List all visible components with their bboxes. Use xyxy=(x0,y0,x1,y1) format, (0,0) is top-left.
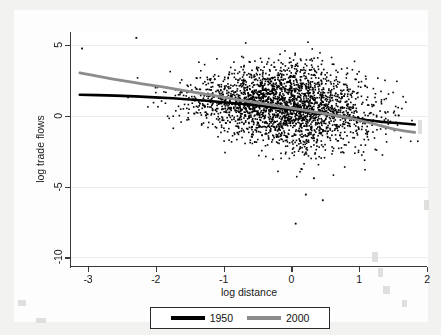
y-axis-title: log trade flows xyxy=(34,115,46,183)
legend-label-2000: 2000 xyxy=(286,313,309,324)
x-tick-mark xyxy=(88,267,89,272)
scan-speck xyxy=(418,120,422,134)
y-tick-mark xyxy=(65,116,70,117)
x-tick-mark xyxy=(224,267,225,272)
legend-item-1950: 1950 xyxy=(171,313,233,324)
y-axis-line xyxy=(70,32,71,268)
x-tick-label: 2 xyxy=(424,273,430,285)
y-tick-label: 5 xyxy=(52,42,64,48)
x-tick-mark xyxy=(359,267,360,272)
scan-speck xyxy=(378,268,383,277)
scan-speck xyxy=(36,318,46,323)
x-tick-mark xyxy=(291,267,292,272)
x-tick-label: -3 xyxy=(83,273,92,285)
scan-speck xyxy=(402,300,407,307)
legend-label-1950: 1950 xyxy=(210,313,233,324)
x-tick-label: -2 xyxy=(151,273,160,285)
scan-speck xyxy=(383,286,390,294)
x-tick-label: 1 xyxy=(356,273,362,285)
y-tick-label: -10 xyxy=(52,250,64,265)
legend-swatch-1950 xyxy=(171,316,205,319)
x-axis-title: log distance xyxy=(221,286,277,298)
x-tick-mark xyxy=(427,267,428,272)
legend-item-2000: 2000 xyxy=(247,313,309,324)
scan-speck xyxy=(424,200,429,210)
y-tick-mark xyxy=(65,187,70,188)
x-axis-line xyxy=(70,266,427,267)
chart-page: 50-5-10 -3-2-1012 log trade flows log di… xyxy=(0,0,441,335)
y-tick-label: 0 xyxy=(52,113,64,119)
scan-speck xyxy=(372,252,378,262)
scan-speck xyxy=(18,300,26,306)
graph-area: 50-5-10 -3-2-1012 log trade flows log di… xyxy=(14,10,428,322)
x-tick-label: -1 xyxy=(219,273,228,285)
plot-region xyxy=(71,32,427,266)
x-tick-label: 0 xyxy=(289,273,295,285)
x-tick-mark xyxy=(156,267,157,272)
y-tick-label: -5 xyxy=(52,182,64,191)
scatter-plot-canvas xyxy=(71,32,427,266)
legend-swatch-2000 xyxy=(247,316,281,319)
y-tick-mark xyxy=(65,257,70,258)
chart-legend: 1950 2000 xyxy=(150,307,330,329)
y-tick-mark xyxy=(65,45,70,46)
